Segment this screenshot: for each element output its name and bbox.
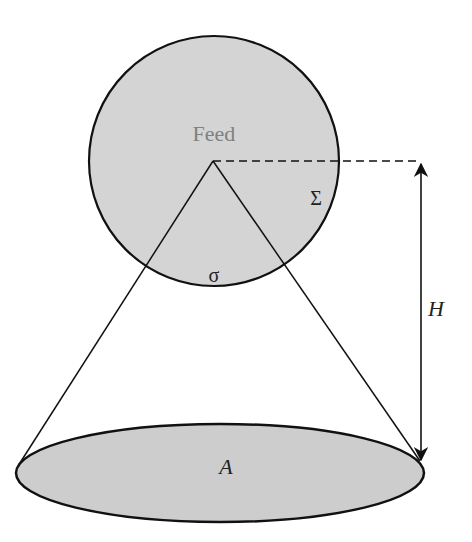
antenna-feed-diagram: Feed Σ σ H A bbox=[0, 0, 472, 542]
sigma-lower-label: σ bbox=[209, 264, 220, 286]
feed-label: Feed bbox=[193, 121, 236, 146]
area-label: A bbox=[217, 454, 233, 479]
sigma-upper-label: Σ bbox=[310, 187, 322, 209]
height-label: H bbox=[427, 296, 445, 321]
